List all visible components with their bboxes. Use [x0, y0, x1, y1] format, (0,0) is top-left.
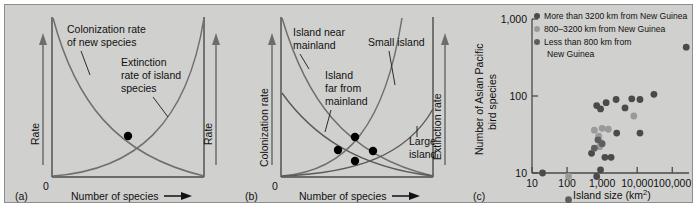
- scatter-point: [603, 99, 610, 106]
- panel-c-y-tick-label: 1,000: [501, 13, 527, 25]
- panel-b-x-arrowhead: [409, 192, 420, 200]
- scatter-point: [599, 125, 606, 132]
- colonization-annotation-line2: of new species: [67, 36, 136, 48]
- panel-a: Rate Rate Colonization rate of new speci…: [5, 5, 237, 202]
- panel-b-x-axis-label: Number of species: [299, 190, 387, 202]
- island-near-mainland-leader: [300, 54, 309, 69]
- colonization-leader-line: [81, 51, 90, 75]
- panel-b-colonization-arrowhead: [268, 33, 276, 45]
- equilibrium-point-near-large: [369, 147, 377, 155]
- equilibrium-point: [124, 132, 132, 140]
- scatter-point: [622, 105, 629, 112]
- legend-marker-far: [534, 13, 540, 19]
- panel-b: Colonization rate Extinction rate Island…: [237, 5, 467, 202]
- panel-c-x-tick-label: 100,000: [653, 177, 691, 189]
- island-far-from-mainland-label-line2: far from: [325, 82, 361, 94]
- panel-c-y-axis-label-line1: Number of Asian Pacific: [473, 44, 485, 155]
- legend-label-mid: 800–3200 km from New Guinea: [544, 24, 666, 34]
- scatter-point: [597, 166, 604, 173]
- panel-a-tag: (a): [15, 190, 28, 202]
- panel-a-right-rate-arrowhead: [212, 33, 220, 45]
- small-island-label: Small island: [368, 36, 425, 48]
- equilibrium-point-far-large: [351, 157, 359, 165]
- panel-c-x-ticks: 101001,00010,000100,000: [526, 167, 691, 189]
- extinction-annotation-line2: rate of island: [121, 69, 181, 81]
- scatter-point: [608, 154, 615, 161]
- legend-label-far: More than 3200 km from New Guinea: [544, 11, 688, 21]
- scatter-point: [613, 130, 620, 137]
- panel-c-x-tick-label: 1,000: [589, 177, 615, 189]
- scatter-point: [628, 95, 635, 102]
- legend-marker-near: [534, 39, 540, 45]
- legend-label-near-line2: New Guinea: [547, 49, 595, 59]
- island-near-mainland-label-line2: mainland: [293, 39, 336, 51]
- panel-b-tag: (b): [245, 190, 258, 202]
- scatter-point: [565, 196, 572, 203]
- panel-c-y-tick-label: 100: [509, 90, 527, 102]
- extinction-annotation-line3: species: [121, 82, 157, 94]
- scatter-point: [593, 173, 600, 180]
- scatter-point: [591, 127, 598, 134]
- equilibrium-point-far-small: [334, 146, 342, 154]
- scatter-point: [599, 140, 606, 147]
- panel-a-x-arrowhead: [181, 192, 192, 200]
- scatter-point: [565, 173, 572, 180]
- panel-a-left-rate-arrowhead: [39, 33, 47, 45]
- panel-b-extinction-arrowhead: [441, 33, 449, 45]
- panel-c-legend: More than 3200 km from New Guinea 800–32…: [534, 11, 688, 59]
- scatter-point: [637, 96, 644, 103]
- scatter-point: [630, 113, 637, 120]
- scatter-point: [637, 130, 644, 137]
- scatter-point: [591, 145, 598, 152]
- figure-container: Rate Rate Colonization rate of new speci…: [4, 4, 693, 203]
- panel-a-right-rate-label: Rate: [202, 123, 214, 145]
- large-island-label-line2: island: [409, 148, 437, 160]
- scatter-point: [651, 91, 658, 98]
- island-far-from-mainland-label-line3: mainland: [325, 95, 368, 107]
- panel-c-x-axis-label: Island size (km2): [573, 188, 651, 201]
- panel-c-x-tick-label: 10: [526, 177, 538, 189]
- extinction-annotation-line1: Extinction: [121, 56, 167, 68]
- scatter-point: [683, 44, 690, 51]
- scatter-point: [597, 105, 604, 112]
- scatter-point: [605, 126, 612, 133]
- legend-label-near-line1: Less than 800 km from: [544, 37, 631, 47]
- scatter-point: [613, 96, 620, 103]
- panel-c: 101001,000 101001,00010,000100,000 Numbe…: [467, 5, 694, 202]
- panel-c-x-axis-label-main: Island size (km: [573, 189, 643, 201]
- island-far-from-mainland-label-line1: Island: [325, 69, 353, 81]
- panel-a-left-rate-label: Rate: [29, 123, 41, 145]
- panel-a-origin-label: 0: [43, 180, 49, 192]
- panel-c-tag: (c): [473, 190, 485, 202]
- equilibrium-point-near-small: [351, 133, 359, 141]
- extinction-leader-line: [153, 97, 168, 117]
- panel-b-origin-label: 0: [272, 180, 278, 192]
- island-near-mainland-label-line1: Island near: [293, 26, 345, 38]
- scatter-point: [602, 154, 609, 161]
- panel-c-x-axis-label-tail: ): [647, 189, 651, 201]
- panel-c-x-tick-label: 10,000: [621, 177, 653, 189]
- panel-a-x-axis-label: Number of species: [71, 190, 159, 202]
- scatter-point: [539, 170, 546, 177]
- colonization-annotation-line1: Colonization rate: [67, 23, 146, 35]
- legend-marker-mid: [534, 26, 540, 32]
- panel-c-y-axis-label-line2: bird species: [486, 74, 498, 130]
- panel-b-left-axis-label: Colonization rate: [258, 88, 270, 167]
- large-island-label-line1: Large: [409, 135, 436, 147]
